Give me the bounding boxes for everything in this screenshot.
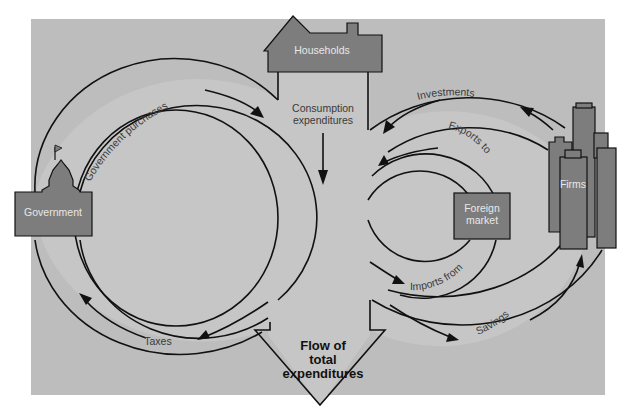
center-label-line3: expenditures [283, 366, 364, 381]
foreign-market-label-line2: market [466, 214, 498, 226]
consumption-label-line1: Consumption [292, 102, 354, 114]
center-label-line2: total [309, 352, 336, 367]
center-label-line1: Flow of [300, 338, 346, 353]
consumption-label-line2: expenditures [293, 114, 353, 126]
taxes-label: Taxes [144, 335, 171, 347]
households-label: Households [294, 44, 349, 56]
foreign-market-label-line1: Foreign [464, 202, 500, 214]
circular-flow-diagram: Households Government Firms Foreign mark… [0, 0, 635, 420]
firms-label: Firms [560, 178, 586, 190]
government-label: Government [24, 206, 82, 218]
